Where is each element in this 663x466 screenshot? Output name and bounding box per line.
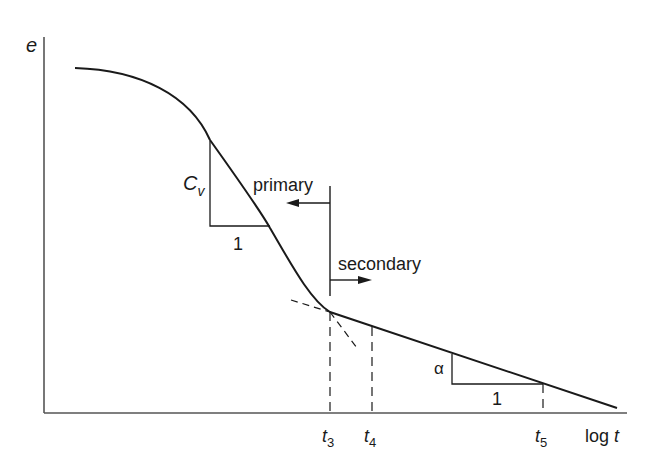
consolidation-diagram: e Cv 1 primary secondary α 1 t3 t4 t5 lo…	[0, 0, 663, 466]
alpha-run-label: 1	[492, 389, 502, 409]
cv-run-label: 1	[233, 234, 243, 254]
secondary-tangent-dashed	[291, 300, 330, 312]
secondary-label: secondary	[338, 254, 421, 274]
x-axis-label: log t	[585, 426, 620, 446]
cv-label: Cv	[183, 172, 205, 199]
primary-label: primary	[253, 175, 313, 195]
y-axis-label: e	[26, 34, 37, 56]
tick-t5: t5	[535, 426, 547, 450]
primary-arrowhead-icon	[286, 199, 299, 207]
tick-t4: t4	[364, 426, 376, 450]
consolidation-curve	[75, 68, 617, 408]
tick-t3: t3	[322, 426, 334, 450]
secondary-arrowhead-icon	[358, 276, 372, 284]
alpha-label: α	[434, 359, 444, 378]
